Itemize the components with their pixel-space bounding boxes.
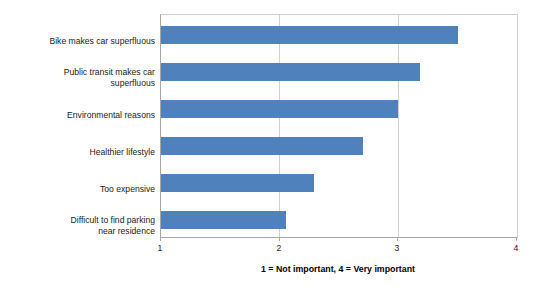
category-label: Bike makes car superfluous xyxy=(0,36,155,47)
axis-tick-label: 2 xyxy=(264,243,294,253)
axis-tick-label: 3 xyxy=(382,243,412,253)
bar-4 xyxy=(161,174,314,192)
bar-3 xyxy=(161,137,363,155)
axis-tick-label: 1 xyxy=(145,243,175,253)
bar-chart: Bike makes car superfluous Public transi… xyxy=(0,0,543,289)
bar-2 xyxy=(161,100,398,118)
gridline-2 xyxy=(279,15,280,237)
gridline-3 xyxy=(398,15,399,237)
axis-title: 1 = Not important, 4 = Very important xyxy=(160,264,516,274)
category-label: Too expensive xyxy=(0,184,155,195)
category-axis-labels: Bike makes car superfluous Public transi… xyxy=(0,14,155,236)
axis-tick-label: 4 xyxy=(501,243,531,253)
axis-tick xyxy=(279,237,280,241)
bar-1 xyxy=(161,63,420,81)
category-label: Environmental reasons xyxy=(0,110,155,121)
axis-tick xyxy=(516,237,517,241)
category-label: Public transit makes car superfluous xyxy=(0,67,155,89)
bar-0 xyxy=(161,26,458,44)
bar-5 xyxy=(161,211,286,229)
axis-tick xyxy=(160,237,161,241)
plot-area xyxy=(160,14,518,238)
category-label: Difficult to find parking near residence xyxy=(0,215,155,237)
axis-tick xyxy=(397,237,398,241)
category-label: Healthier lifestyle xyxy=(0,147,155,158)
